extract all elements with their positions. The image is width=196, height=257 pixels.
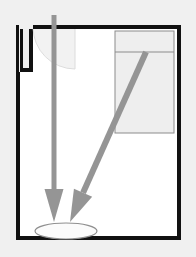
vertical-arrow-shaft (52, 15, 57, 189)
vessel-flow-svg (0, 0, 196, 257)
inset-detail-box (115, 31, 174, 133)
liquid-pool-ellipse (35, 223, 97, 239)
diagram-canvas: Vessel cross-section flow diagram (0, 0, 196, 257)
